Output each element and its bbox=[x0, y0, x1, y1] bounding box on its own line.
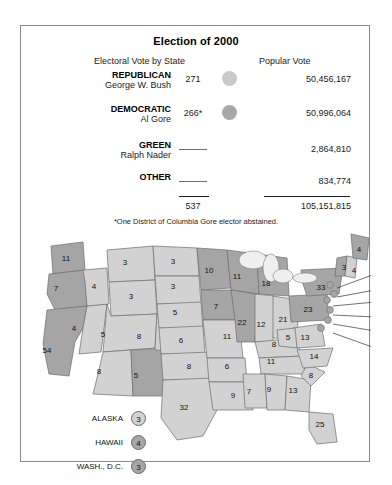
state-label-nd: 3 bbox=[171, 257, 176, 266]
state-label-wy: 3 bbox=[129, 292, 134, 301]
state-de bbox=[325, 317, 332, 324]
state-label-ar: 6 bbox=[225, 362, 230, 371]
leader-line-ct bbox=[333, 302, 371, 306]
candidate-name: Al Gore bbox=[61, 114, 171, 125]
state-ca bbox=[43, 306, 87, 376]
popular-votes: 50,996,064 bbox=[261, 108, 351, 118]
legend-votes-alaska: 3 bbox=[131, 411, 146, 426]
state-label-ky: 8 bbox=[272, 340, 277, 349]
party-color-swatch bbox=[222, 105, 237, 120]
column-header-electoral: Electoral Vote by State bbox=[94, 56, 185, 66]
column-header-popular: Popular Vote bbox=[259, 56, 311, 66]
state-mn bbox=[197, 248, 231, 290]
state-label-ok: 8 bbox=[187, 362, 192, 371]
state-label-tx: 32 bbox=[180, 403, 189, 412]
leader-line-de bbox=[333, 324, 371, 331]
state-label-pa: 23 bbox=[304, 305, 313, 314]
state-label-ne: 5 bbox=[173, 308, 178, 317]
state-ct bbox=[324, 297, 331, 304]
state-label-mn: 10 bbox=[205, 266, 214, 275]
state-label-wv: 5 bbox=[286, 333, 291, 342]
state-ri bbox=[331, 291, 338, 298]
great-lake-1 bbox=[239, 251, 267, 269]
party-color-swatch bbox=[222, 71, 237, 86]
electoral-votes-dash bbox=[179, 149, 207, 150]
state-label-vt: 3 bbox=[342, 263, 347, 272]
candidate-name: George W. Bush bbox=[61, 80, 171, 91]
state-label-ga: 13 bbox=[289, 386, 298, 395]
state-label-fl: 25 bbox=[316, 420, 325, 429]
state-label-az: 8 bbox=[97, 367, 102, 376]
state-label-nh: 4 bbox=[352, 266, 357, 275]
state-nj bbox=[327, 307, 334, 314]
legend-label-alaska: ALASKA bbox=[31, 414, 123, 423]
state-tx bbox=[161, 378, 217, 440]
leader-line-nj bbox=[333, 315, 371, 317]
state-label-or: 7 bbox=[54, 284, 59, 293]
state-label-ut: 5 bbox=[101, 330, 106, 339]
us-map-svg: 1175444335858335683210711691122181221811… bbox=[21, 224, 371, 462]
popular-votes: 50,456,167 bbox=[261, 74, 351, 84]
state-mt bbox=[107, 246, 155, 282]
state-label-ia: 7 bbox=[214, 302, 219, 311]
popular-total-rule bbox=[264, 196, 350, 197]
state-label-sd: 3 bbox=[171, 282, 176, 291]
state-label-id: 4 bbox=[92, 282, 97, 291]
state-label-nc: 14 bbox=[310, 352, 319, 361]
state-label-ca: 54 bbox=[43, 346, 52, 355]
state-label-oh: 21 bbox=[279, 315, 288, 324]
state-label-la: 9 bbox=[231, 391, 236, 400]
electoral-votes: 266* bbox=[176, 108, 210, 118]
state-ma bbox=[327, 282, 334, 289]
state-label-wa: 11 bbox=[62, 254, 71, 263]
state-label-ms: 7 bbox=[247, 387, 252, 396]
electoral-map: 1175444335858335683210711691122181221811… bbox=[21, 224, 371, 462]
state-label-ny: 33 bbox=[317, 283, 326, 292]
electoral-total-rule bbox=[179, 196, 209, 197]
state-label-in: 12 bbox=[257, 320, 266, 329]
leader-line-md bbox=[333, 333, 371, 348]
legend-votes-wash-d-c: 3 bbox=[131, 459, 146, 474]
legend-label-hawaii: HAWAII bbox=[31, 438, 123, 447]
electoral-votes: 271 bbox=[176, 74, 210, 84]
state-label-me: 4 bbox=[357, 245, 362, 254]
infographic-frame: Election of 2000 Electoral Vote by State… bbox=[20, 25, 370, 462]
popular-votes: 834,774 bbox=[261, 176, 351, 186]
great-lake-3 bbox=[273, 269, 293, 283]
state-label-va: 13 bbox=[301, 333, 310, 342]
state-label-wi: 11 bbox=[233, 272, 242, 281]
popular-votes: 2,864,810 bbox=[261, 144, 351, 154]
state-md bbox=[318, 325, 325, 332]
state-in bbox=[255, 294, 275, 342]
leader-line-ri bbox=[337, 290, 371, 297]
candidate-name: Ralph Nader bbox=[61, 150, 171, 161]
state-label-co: 8 bbox=[137, 332, 142, 341]
state-label-nv: 4 bbox=[72, 324, 77, 333]
state-sd bbox=[155, 276, 201, 304]
state-label-mi: 18 bbox=[262, 279, 271, 288]
state-label-tn: 11 bbox=[267, 357, 276, 366]
state-ne bbox=[157, 302, 203, 330]
electoral-total: 537 bbox=[176, 201, 210, 211]
state-label-mt: 3 bbox=[123, 258, 128, 267]
state-label-il: 22 bbox=[238, 318, 247, 327]
state-label-al: 9 bbox=[267, 385, 272, 394]
state-label-sc: 8 bbox=[309, 371, 314, 380]
popular-total: 105,151,815 bbox=[261, 201, 351, 211]
party-name: OTHER bbox=[61, 172, 171, 183]
great-lake-4 bbox=[293, 273, 317, 283]
page-title: Election of 2000 bbox=[21, 35, 371, 47]
legend-votes-hawaii: 4 bbox=[131, 435, 146, 450]
state-label-nm: 5 bbox=[134, 371, 139, 380]
state-label-ks: 6 bbox=[179, 336, 184, 345]
state-nd bbox=[153, 246, 199, 276]
legend-label-wash-d-c: WASH., D.C. bbox=[31, 462, 123, 471]
electoral-votes-dash bbox=[179, 181, 207, 182]
state-label-mo: 11 bbox=[223, 332, 232, 341]
